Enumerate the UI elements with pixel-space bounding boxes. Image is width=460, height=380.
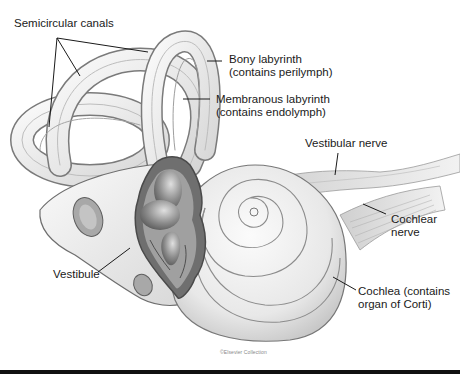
copyright-credit: ©Elsevier Collection xyxy=(220,349,267,355)
label-bony-labyrinth-line1: Bony labyrinth xyxy=(229,53,302,66)
leader-semicircular-2 xyxy=(57,38,80,76)
bottom-rule-divider xyxy=(0,370,460,374)
label-cochlear-nerve-line2: nerve xyxy=(391,226,420,239)
label-cochlea-line2: organ of Corti) xyxy=(358,298,432,311)
label-semicircular-canals: Semicircular canals xyxy=(14,17,114,30)
label-vestibular-nerve: Vestibular nerve xyxy=(305,137,387,150)
label-cochlear-nerve-line1: Cochlear xyxy=(391,213,437,226)
leader-semicircular-3 xyxy=(57,38,148,52)
label-bony-labyrinth-line2: (contains perilymph) xyxy=(229,66,333,79)
label-membranous-labyrinth-line2: (contains endolymph) xyxy=(216,106,326,119)
label-membranous-labyrinth-line1: Membranous labyrinth xyxy=(216,93,330,106)
label-vestibule: Vestibule xyxy=(53,268,100,281)
inner-ear-diagram: Semicircular canals Bony labyrinth (cont… xyxy=(0,0,460,380)
label-cochlea-line1: Cochlea (contains xyxy=(358,285,450,298)
